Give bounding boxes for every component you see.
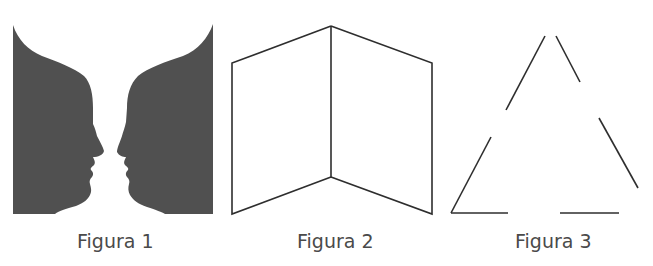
figure-1-profiles	[13, 24, 213, 214]
figure-2-folded-card	[232, 26, 432, 214]
right-panel-outline	[331, 26, 432, 214]
figure-1-caption: Figura 1	[77, 230, 154, 252]
figure-2-caption: Figura 2	[297, 230, 374, 252]
segment-right-lower	[599, 118, 638, 188]
left-profile-silhouette	[13, 25, 104, 214]
figure-3-broken-triangle	[451, 36, 638, 213]
figures-panel: Figura 1 Figura 2 Figura 3	[0, 0, 653, 266]
segment-left-upper	[506, 36, 545, 110]
segment-left-lower	[451, 137, 491, 213]
segment-right-upper	[556, 36, 580, 82]
figures-canvas	[0, 0, 653, 226]
figure-3-caption: Figura 3	[515, 230, 592, 252]
right-profile-silhouette	[117, 24, 213, 214]
left-panel-outline	[232, 26, 331, 214]
